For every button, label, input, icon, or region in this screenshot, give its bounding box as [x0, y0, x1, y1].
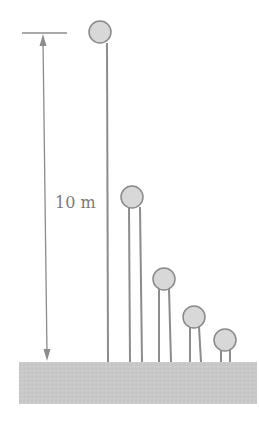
arrow-up-icon — [40, 34, 47, 46]
ball-icon — [121, 186, 143, 208]
post-bounce-2b — [169, 289, 171, 362]
ball-icon — [89, 21, 111, 43]
post-bounce-0 — [107, 43, 108, 362]
height-label: 10 m — [55, 193, 96, 212]
ground — [19, 362, 257, 404]
height-dimension: 10 m — [22, 33, 96, 361]
post-bounce-1b — [140, 207, 142, 362]
post-bounce-1a — [129, 207, 130, 362]
ball-icon — [183, 306, 205, 328]
balls — [89, 21, 236, 351]
ball-icon — [214, 329, 236, 351]
ball-icon — [153, 268, 175, 290]
arrow-down-icon — [44, 349, 51, 361]
bouncing-ball-diagram: 10 m — [0, 0, 259, 425]
post-bounce-3b — [199, 327, 201, 362]
dimension-line — [43, 40, 47, 354]
